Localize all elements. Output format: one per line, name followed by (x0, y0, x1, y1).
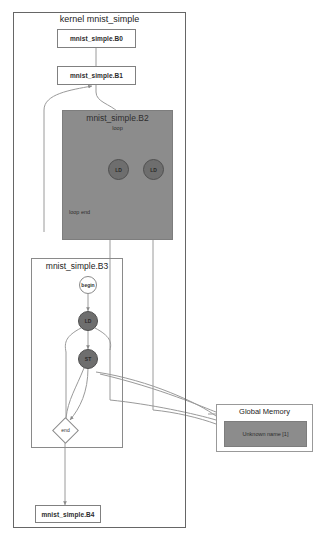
global-memory-cell-0[interactable]: Unknown name [1] (224, 421, 307, 447)
block-b1[interactable]: mnist_simple.B1 (57, 66, 136, 85)
body-region-title: mnist_simple.B3 (31, 261, 123, 271)
body-node-st[interactable]: ST (78, 349, 98, 369)
body-node-end-label: end (51, 427, 80, 433)
body-node-begin[interactable]: begin (79, 276, 97, 294)
kernel-title: kernel mnist_simple (13, 14, 186, 24)
loop-region-title: mnist_simple.B2 (62, 113, 173, 123)
body-node-ld[interactable]: LD (78, 311, 98, 331)
loop-node-ld-2[interactable]: LD (143, 159, 164, 180)
loop-region-subtitle: loop (62, 125, 173, 131)
dataflow-graph: kernel mnist_simple mnist_simple.B0 mnis… (0, 0, 325, 551)
body-region-b3[interactable] (31, 258, 123, 448)
global-memory-title: Global Memory (216, 407, 313, 416)
loop-end-label: loop end (69, 209, 90, 215)
block-b0[interactable]: mnist_simple.B0 (57, 29, 136, 48)
loop-node-ld-1[interactable]: LD (108, 159, 129, 180)
block-b4[interactable]: mnist_simple.B4 (35, 505, 101, 523)
